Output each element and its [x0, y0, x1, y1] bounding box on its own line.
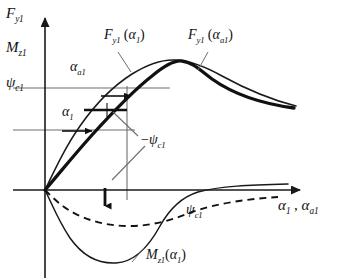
- y-axis-label-fy1-base: F: [6, 5, 15, 21]
- curve-label-psi-c1-base: ψ: [186, 202, 195, 217]
- curve-label-mz1-alpha1-base: M: [146, 247, 158, 262]
- y-axis-label-psic1-base: ψ: [6, 74, 15, 90]
- curve-label-fy1-alphaa1-open: (: [204, 27, 212, 42]
- annotation-minus-psi-c1-sub: c1: [158, 140, 166, 150]
- annotation-alpha-a1: αa1: [70, 60, 86, 76]
- curve-label-fy1-alpha1-close: ): [140, 27, 145, 42]
- curve-label-fy1-alphaa1-base: F: [188, 27, 197, 42]
- curve-label-mz1-alpha1-sub: z1: [158, 255, 165, 265]
- curve-label-mz1-alpha1: Mz1(α1): [146, 248, 186, 264]
- y-axis-label-mz1-base: M: [6, 39, 19, 55]
- curve-label-mz1-alpha1-arg: α: [170, 247, 177, 262]
- annotation-arrows: [62, 52, 208, 262]
- leader-line-minus-psi: [112, 146, 145, 180]
- annotation-alpha-1-sub: 1: [69, 112, 73, 122]
- curve-label-fy1-alphaa1-argsub: a1: [220, 35, 228, 45]
- y-axis-label-mz1: Mz1: [6, 40, 26, 58]
- curve-label-fy1-alpha1-open: (: [120, 27, 128, 42]
- curve-label-fy1-alpha1-base: F: [104, 27, 113, 42]
- curve-fy1-alpha1: [45, 60, 296, 190]
- x-axis-label-base1: α: [278, 197, 286, 213]
- y-axis-label-fy1-sub: y1: [15, 14, 23, 24]
- curve-label-psi-c1-sub: c1: [195, 210, 203, 220]
- annotation-minus-psi-c1-prefix: −: [141, 132, 149, 147]
- annotation-alpha-1: α1: [62, 105, 74, 121]
- curve-label-fy1-alphaa1-arg: α: [213, 27, 220, 42]
- y-axis-label-fy1: Fy1: [6, 6, 24, 24]
- curve-fy1-alphaa1: [45, 61, 294, 190]
- y-axis-label-psic1: ψc1: [6, 75, 24, 93]
- curve-label-fy1-alphaa1: Fy1 (αa1): [188, 28, 233, 44]
- curve-psi-c1-dashed: [45, 190, 278, 226]
- x-axis-label-sub2: a1: [309, 206, 318, 216]
- y-axis-label-mz1-sub: z1: [19, 48, 27, 58]
- leader-line-shift: [113, 112, 138, 136]
- leader-line-mz1: [132, 248, 144, 262]
- annotation-alpha-a1-sub: a1: [77, 67, 85, 77]
- annotation-minus-psi-c1-base: ψ: [149, 132, 158, 147]
- annotation-minus-psi-c1: −ψc1: [141, 133, 165, 149]
- curve-label-psi-c1: ψc1: [186, 203, 203, 219]
- curve-label-fy1-alpha1: Fy1 (α1): [104, 28, 145, 44]
- y-axis-label-psic1-sub: c1: [15, 83, 23, 93]
- leader-line-fy1-alpha1: [118, 52, 131, 72]
- x-axis-label-separator: ,: [290, 197, 301, 213]
- diagram-canvas: [0, 0, 338, 280]
- curve-label-mz1-alpha1-close: ): [181, 247, 186, 262]
- x-axis-label: α1 , αa1: [278, 198, 318, 216]
- curve-label-fy1-alpha1-arg: α: [129, 27, 136, 42]
- curve-label-fy1-alphaa1-close: ): [228, 27, 233, 42]
- figure-container: Fy1 Mz1 ψc1 α1 , αa1 αa1 α1 −ψc1 ψc1 Fy1…: [0, 0, 338, 280]
